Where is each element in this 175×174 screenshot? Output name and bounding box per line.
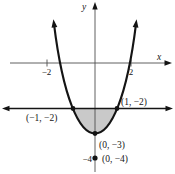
function-graph-figure: y x −2 2 −4 (−1, −2) (1, −2) (0, −3) (0,… — [0, 0, 175, 174]
y-tick-neg4-label: −4 — [82, 154, 92, 164]
point-y-axis-neg4 — [92, 155, 97, 160]
y-axis-arrow-icon — [92, 2, 97, 10]
point-left-intersection — [71, 106, 76, 111]
x-tick-pos2-label: 2 — [129, 67, 134, 77]
label-left-intersection: (−1, −2) — [26, 113, 57, 124]
point-right-intersection — [115, 106, 120, 111]
label-right-intersection: (1, −2) — [121, 97, 147, 108]
x-axis-label: x — [156, 52, 162, 62]
parabola-left-arrow-icon — [51, 19, 58, 28]
y-axis-label: y — [81, 2, 87, 12]
horizontal-line-left-arrow-icon — [2, 106, 10, 111]
function-graph-canvas: y x −2 2 −4 (−1, −2) (1, −2) (0, −3) (0,… — [0, 0, 175, 174]
parabola-right-arrow-icon — [133, 19, 140, 28]
label-vertex: (0, −3) — [99, 140, 125, 151]
x-tick-neg2-label: −2 — [42, 67, 52, 77]
label-y-axis-point: (0, −4) — [102, 154, 128, 165]
point-vertex — [93, 131, 98, 136]
x-axis-arrow-icon — [165, 60, 173, 65]
horizontal-line-right-arrow-icon — [166, 106, 174, 111]
